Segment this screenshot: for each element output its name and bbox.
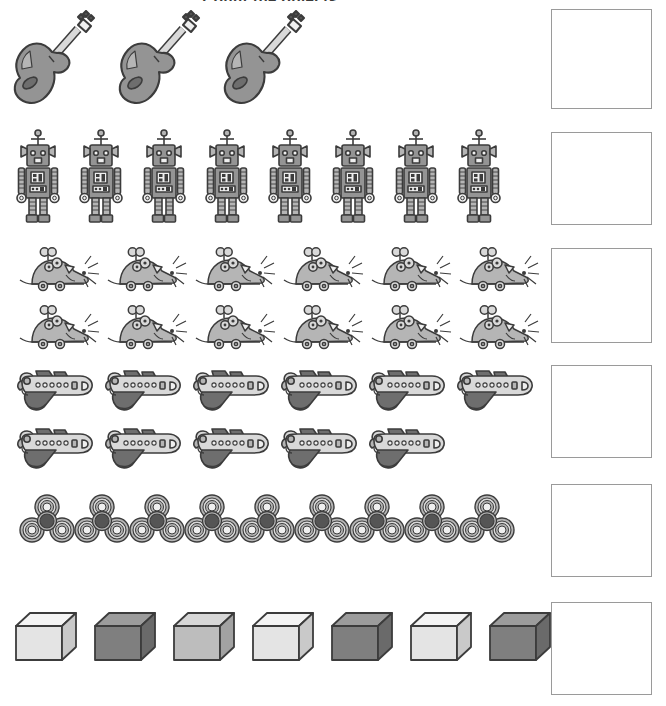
answer-box-guitars[interactable] bbox=[551, 9, 652, 109]
answer-value-guitars bbox=[552, 10, 651, 108]
fidget-spinner-icon bbox=[238, 492, 296, 550]
airplane-item bbox=[14, 423, 102, 473]
airplane-item bbox=[278, 423, 366, 473]
wind-up-mouse-icon bbox=[194, 246, 278, 296]
object-line bbox=[14, 423, 454, 473]
cube-icon bbox=[170, 608, 238, 670]
robot-icon bbox=[264, 128, 316, 224]
airplane-item bbox=[14, 365, 102, 415]
fidget-spinner-item bbox=[238, 492, 293, 550]
fidget-spinner-icon bbox=[293, 492, 351, 550]
cube-item bbox=[91, 608, 170, 670]
wind-up-mouse-icon bbox=[458, 304, 542, 354]
answer-value-robots bbox=[552, 133, 651, 224]
robot-item bbox=[12, 128, 75, 224]
cube-icon bbox=[486, 608, 554, 670]
fidget-spinner-item bbox=[293, 492, 348, 550]
fidget-spinner-item bbox=[403, 492, 458, 550]
robot-icon bbox=[453, 128, 505, 224]
robot-icon bbox=[201, 128, 253, 224]
airplane-icon bbox=[366, 423, 448, 473]
fidget-spinner-item bbox=[348, 492, 403, 550]
answer-value-mice bbox=[552, 249, 651, 342]
answer-box-mice[interactable] bbox=[551, 248, 652, 343]
airplane-item bbox=[102, 423, 190, 473]
wind-up-mouse-item bbox=[458, 304, 546, 354]
airplane-icon bbox=[14, 365, 96, 415]
cube-icon bbox=[407, 608, 475, 670]
wind-up-mouse-icon bbox=[370, 304, 454, 354]
robot-item bbox=[201, 128, 264, 224]
airplane-icon bbox=[454, 365, 536, 415]
cube-icon bbox=[328, 608, 396, 670]
robot-item bbox=[390, 128, 453, 224]
wind-up-mouse-icon bbox=[370, 246, 454, 296]
robot-item bbox=[327, 128, 390, 224]
answer-box-spinners[interactable] bbox=[551, 484, 652, 577]
fidget-spinner-icon bbox=[128, 492, 186, 550]
wind-up-mouse-icon bbox=[18, 304, 102, 354]
fidget-spinner-item bbox=[183, 492, 238, 550]
airplane-item bbox=[102, 365, 190, 415]
airplane-item bbox=[366, 365, 454, 415]
guitar-item bbox=[8, 10, 113, 110]
robot-item bbox=[264, 128, 327, 224]
page-title: Count the objects bbox=[0, 0, 540, 1]
airplane-item bbox=[190, 423, 278, 473]
airplane-icon bbox=[366, 365, 448, 415]
object-line bbox=[18, 492, 513, 550]
object-line bbox=[8, 10, 323, 110]
fidget-spinner-icon bbox=[73, 492, 131, 550]
airplane-icon bbox=[14, 423, 96, 473]
airplane-icon bbox=[102, 423, 184, 473]
wind-up-mouse-icon bbox=[18, 246, 102, 296]
wind-up-mouse-icon bbox=[282, 304, 366, 354]
fidget-spinner-item bbox=[128, 492, 183, 550]
fidget-spinner-icon bbox=[458, 492, 516, 550]
answer-box-robots[interactable] bbox=[551, 132, 652, 225]
airplane-icon bbox=[278, 365, 360, 415]
cube-icon bbox=[91, 608, 159, 670]
airplane-item bbox=[278, 365, 366, 415]
fidget-spinner-icon bbox=[183, 492, 241, 550]
object-line bbox=[18, 304, 546, 354]
answer-box-cubes[interactable] bbox=[551, 602, 652, 695]
wind-up-mouse-item bbox=[458, 246, 546, 296]
airplane-icon bbox=[278, 423, 360, 473]
counting-worksheet: Count the objects bbox=[0, 0, 666, 706]
airplane-icon bbox=[102, 365, 184, 415]
cube-icon bbox=[12, 608, 80, 670]
object-line bbox=[12, 128, 516, 224]
cube-item bbox=[328, 608, 407, 670]
answer-box-planes[interactable] bbox=[551, 365, 652, 458]
wind-up-mouse-item bbox=[194, 304, 282, 354]
object-line bbox=[12, 608, 565, 670]
wind-up-mouse-item bbox=[370, 246, 458, 296]
fidget-spinner-icon bbox=[403, 492, 461, 550]
wind-up-mouse-icon bbox=[106, 304, 190, 354]
wind-up-mouse-item bbox=[18, 304, 106, 354]
wind-up-mouse-icon bbox=[194, 304, 278, 354]
wind-up-mouse-icon bbox=[282, 246, 366, 296]
fidget-spinner-icon bbox=[18, 492, 76, 550]
robot-icon bbox=[12, 128, 64, 224]
wind-up-mouse-item bbox=[106, 246, 194, 296]
airplane-item bbox=[366, 423, 454, 473]
answer-value-spinners bbox=[552, 485, 651, 576]
wind-up-mouse-icon bbox=[106, 246, 190, 296]
wind-up-mouse-item bbox=[194, 246, 282, 296]
fidget-spinner-item bbox=[18, 492, 73, 550]
wind-up-mouse-item bbox=[106, 304, 194, 354]
robot-item bbox=[75, 128, 138, 224]
wind-up-mouse-item bbox=[282, 304, 370, 354]
robot-icon bbox=[327, 128, 379, 224]
object-line bbox=[14, 365, 542, 415]
robot-icon bbox=[390, 128, 442, 224]
guitar-icon bbox=[113, 10, 205, 110]
airplane-icon bbox=[190, 365, 272, 415]
answer-value-planes bbox=[552, 366, 651, 457]
wind-up-mouse-icon bbox=[458, 246, 542, 296]
cube-icon bbox=[249, 608, 317, 670]
fidget-spinner-item bbox=[73, 492, 128, 550]
robot-icon bbox=[138, 128, 190, 224]
